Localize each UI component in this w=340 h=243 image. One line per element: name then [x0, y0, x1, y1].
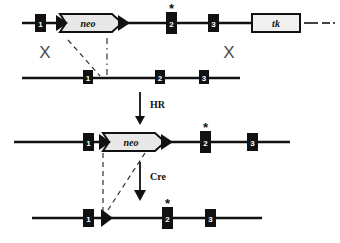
exon-box-label: 2: [165, 215, 170, 224]
tk-cassette-label: tk: [272, 18, 280, 29]
neo-cassette-label: neo: [124, 137, 139, 148]
exon-box-label: 1: [86, 74, 91, 83]
exon-box-label: 2: [169, 20, 174, 29]
exon-box-3: 3: [247, 133, 258, 151]
exon-box-3: 3: [205, 209, 216, 227]
exon-box-label: 3: [211, 20, 216, 29]
exon-box-1: 1: [83, 70, 93, 84]
exon-box-1: 1: [35, 14, 46, 32]
exon-box-label: 2: [203, 139, 208, 148]
exon-box-1: 1: [83, 209, 94, 227]
left-crossover-mark: X: [39, 43, 50, 62]
exon-box-label: 3: [208, 215, 213, 224]
exon-box-3: 3: [199, 70, 209, 84]
exon-box-3: 3: [208, 14, 219, 32]
exon-box-label: 1: [38, 20, 43, 29]
neo-cassette: neo: [60, 14, 122, 32]
hr-step-label: HR: [150, 99, 166, 110]
exon-box-label: 3: [250, 139, 255, 148]
exon-box-label: 1: [86, 139, 91, 148]
exon-box-label: 3: [202, 74, 207, 83]
exon-box-label: 2: [158, 74, 163, 83]
exon-box-2: 2: [155, 70, 165, 84]
cre-step-label: Cre: [150, 171, 166, 182]
neo-cassette-label: neo: [81, 18, 96, 29]
exon-box-label: 1: [86, 215, 91, 224]
exon-box-1: 1: [83, 133, 94, 151]
tk-cassette: tk: [252, 14, 300, 32]
neo-cassette: neo: [103, 133, 165, 151]
right-crossover-mark: X: [223, 43, 234, 62]
recombination-diagram: 1 neo 2 * 3 tk X X: [0, 0, 340, 243]
